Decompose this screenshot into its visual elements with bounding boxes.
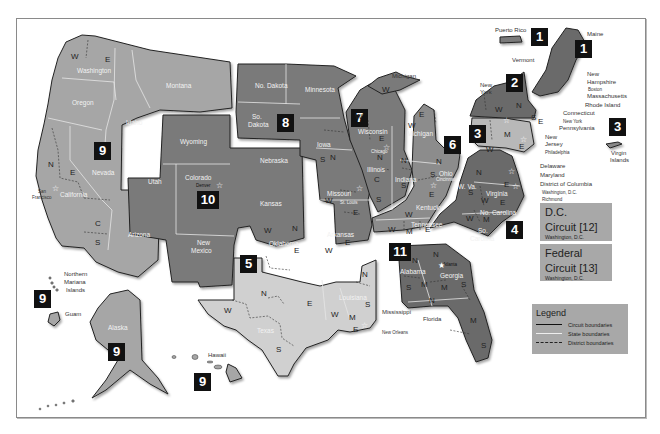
district-pa-e: E	[519, 142, 524, 151]
state-label-alabama: Alabama	[400, 268, 426, 275]
federal-circuit-line2: Circuit [13]	[540, 259, 612, 274]
badge-circuit-8: 8	[277, 114, 294, 132]
virgin-islands-shape	[606, 142, 622, 148]
district-mi-up-w: W	[382, 85, 390, 94]
district-ky-e: E	[429, 190, 434, 199]
district-mi-e: E	[419, 110, 424, 119]
district-il-n: N	[377, 153, 383, 162]
federal-circuit-line1: Federal	[540, 244, 612, 259]
state-label-so-carolina-1: So.	[478, 227, 488, 234]
callout-virgin-islands-1: Virgin	[611, 150, 626, 157]
district-ok-n: N	[292, 224, 298, 233]
district-oh-n: N	[436, 157, 442, 166]
callout-florida: Florida	[423, 316, 441, 323]
district-nc-e: E	[500, 198, 505, 207]
badge-circuit-9: 9	[94, 142, 111, 160]
callout-puerto-rico: Puerto Rico	[495, 27, 526, 34]
callout-new-jersey-1: New	[545, 134, 557, 141]
district-ms-s: S	[365, 300, 370, 309]
district-va-w: W	[481, 196, 489, 205]
badge-circuit-1: 1	[575, 40, 592, 58]
district-wi-e: E	[379, 134, 384, 143]
district-wi-w: W	[355, 112, 363, 121]
star-icon-richmond: ☆	[512, 183, 519, 191]
state-label-nevada: Nevada	[92, 169, 114, 176]
callout-vermont: Vermont	[512, 57, 534, 64]
district-tx-s: S	[276, 345, 281, 354]
district-tx-n: N	[261, 289, 267, 298]
district-la-w: W	[331, 310, 339, 319]
dc-circuit-box: D.C. Circuit [12] Washington, D.C.	[540, 203, 612, 241]
district-fl-n: N	[429, 296, 435, 305]
callout-northern-mariana-2: Mariana	[64, 279, 86, 286]
district-wv-n: N	[476, 168, 482, 177]
badge-circuit-1-pr: 1	[531, 28, 548, 46]
district-ar-e: E	[345, 238, 350, 247]
district-pa-w: W	[486, 145, 494, 154]
state-label-so-dakota-2: Dakota	[248, 121, 269, 128]
district-wa-w: W	[71, 52, 79, 61]
legend-label-state: State boundaries	[568, 331, 610, 337]
badge-circuit-9-nmi: 9	[34, 290, 51, 308]
district-ms-n: N	[362, 270, 368, 279]
district-tn-w: W	[388, 225, 396, 234]
district-mo-w: W	[325, 196, 333, 205]
callout-atlanta: Atlanta	[443, 262, 457, 267]
state-label-kentucky: Kentucky	[416, 204, 443, 211]
state-label-wyoming: Wyoming	[180, 138, 207, 145]
callout-maine: Maine	[587, 31, 603, 38]
callout-cincinnati: Cincinnati	[436, 177, 456, 182]
callout-maryland: Maryland	[540, 172, 565, 179]
district-wa-e: E	[105, 55, 110, 64]
callout-massachusetts: Massachusetts	[587, 93, 627, 100]
district-ia-n: N	[330, 153, 336, 162]
legend-item-district: District boundaries	[532, 338, 628, 347]
callout-denver: Denver	[196, 183, 211, 188]
district-in-s: S	[401, 181, 406, 190]
star-icon-new-york: ☆	[503, 117, 510, 125]
district-ky-w: W	[405, 210, 413, 219]
district-ca-e: E	[70, 168, 75, 177]
state-label-washington: Washington	[77, 67, 111, 74]
callout-san-francisco-1: San	[38, 189, 46, 194]
district-oh-s: S	[430, 170, 435, 179]
callout-new-york-city: New York	[563, 119, 582, 124]
badge-circuit-4: 4	[506, 221, 523, 239]
legend-box: Legend Circuit boundaries State boundari…	[532, 304, 628, 354]
state-label-new-mexico-1: New	[197, 239, 210, 246]
district-al-n: N	[412, 256, 418, 265]
dc-circuit-sub: Washington, D.C.	[540, 233, 612, 240]
dc-circuit-line1: D.C.	[540, 203, 612, 218]
district-tx-e: E	[307, 299, 312, 308]
district-tx-w: W	[224, 306, 232, 315]
state-label-arkansas: Arkansas	[327, 231, 354, 238]
district-ca-c: C	[95, 219, 101, 228]
callout-richmond: Richmond	[542, 197, 562, 202]
callout-pennsylvania: Pennsylvania	[559, 125, 595, 132]
callout-new-york-1: New	[480, 82, 492, 89]
star-icon-cincinnati: ☆	[430, 182, 437, 190]
callout-rhode-island: Rhode Island	[585, 102, 620, 109]
legend-label-district: District boundaries	[568, 340, 614, 346]
state-label-california: California	[60, 191, 87, 198]
district-fl-m: M	[470, 316, 477, 325]
callout-connecticut: Connecticut	[563, 110, 595, 117]
star-icon-boston: ☆	[570, 84, 577, 92]
state-label-montana: Montana	[166, 82, 191, 89]
district-la-m: M	[349, 313, 356, 322]
callout-st-louis: St. Louis	[340, 200, 358, 205]
state-label-virginia: Virginia	[486, 190, 508, 197]
state-label-louisiana: Louisiana	[339, 294, 367, 301]
dc-circuit-line2: Circuit [12]	[540, 218, 612, 233]
badge-circuit-9-hawaii: 9	[194, 373, 211, 391]
callout-san-francisco-2: Francisco	[32, 195, 52, 200]
badge-circuit-3-vi: 3	[609, 118, 626, 136]
federal-circuit-sub: Washington, D.C.	[540, 274, 612, 281]
district-fl-s: S	[481, 341, 486, 350]
legend-swatch-solid-dark	[536, 324, 562, 325]
callout-delaware: Delaware	[540, 163, 565, 170]
star-icon-new-orleans: ☆	[361, 322, 368, 330]
state-label-new-mexico-2: Mexico	[191, 247, 212, 254]
state-label-ohio: Ohio	[439, 170, 453, 177]
guam-shape	[48, 312, 60, 326]
